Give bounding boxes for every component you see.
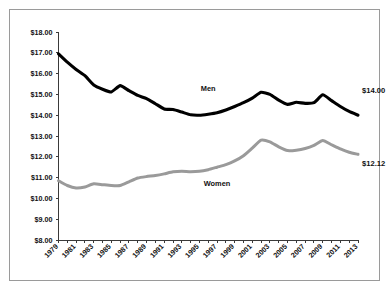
series-label-men: Men <box>201 84 216 93</box>
men-endpoint-label: $14.00 <box>362 86 385 95</box>
data-series-group <box>59 54 359 188</box>
y-tick-label: $8.00 <box>35 236 53 245</box>
y-tick-label: $16.00 <box>31 69 53 78</box>
line-chart-canvas: $8.00$9.00$10.00$11.00$12.00$13.00$14.00… <box>0 0 392 291</box>
women-endpoint-label: $12.12 <box>362 159 385 168</box>
x-tick-label: 2007 <box>289 242 307 260</box>
y-tick-label: $18.00 <box>31 28 53 37</box>
endpoint-annotations: $14.00$12.12 <box>362 86 385 168</box>
x-axis <box>59 240 359 243</box>
y-tick-label: $15.00 <box>31 90 53 99</box>
x-tick-label: 2005 <box>271 242 289 260</box>
x-tick-label: 1993 <box>166 242 184 260</box>
y-axis <box>56 32 59 240</box>
y-tick-label: $12.00 <box>31 152 53 161</box>
x-tick-label: 1987 <box>113 242 131 260</box>
x-axis-tick-labels: 1979198119831985198719891991199319951997… <box>42 242 359 260</box>
x-tick-label: 1991 <box>148 242 166 260</box>
y-tick-label: $10.00 <box>31 194 53 203</box>
x-tick-label: 2013 <box>342 242 360 260</box>
x-tick-label: 1995 <box>183 242 201 260</box>
y-tick-label: $11.00 <box>31 173 53 182</box>
y-tick-label: $14.00 <box>31 111 53 120</box>
x-tick-label: 1985 <box>95 242 113 260</box>
y-axis-tick-labels: $8.00$9.00$10.00$11.00$12.00$13.00$14.00… <box>31 28 53 245</box>
x-tick-label: 1999 <box>218 242 236 260</box>
series-inline-labels: MenWomen <box>201 84 231 188</box>
x-tick-label: 2001 <box>236 242 254 260</box>
y-tick-label: $9.00 <box>35 215 53 224</box>
y-tick-label: $13.00 <box>31 132 53 141</box>
x-tick-label: 1997 <box>201 242 219 260</box>
y-tick-label: $17.00 <box>31 48 53 57</box>
x-tick-label: 1979 <box>42 242 60 260</box>
x-tick-label: 2011 <box>324 242 341 259</box>
x-tick-label: 1983 <box>77 242 95 260</box>
chart-figure: $8.00$9.00$10.00$11.00$12.00$13.00$14.00… <box>0 0 392 291</box>
x-tick-label: 1981 <box>60 242 78 260</box>
x-tick-label: 2003 <box>254 242 272 260</box>
x-tick-label: 1989 <box>130 242 148 260</box>
x-tick-label: 2009 <box>307 242 325 260</box>
series-label-women: Women <box>204 179 231 188</box>
